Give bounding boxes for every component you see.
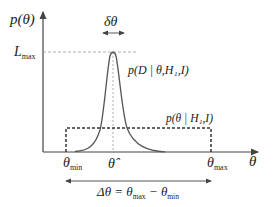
theta-hat-label: θ̂ [108, 156, 121, 171]
theta-min-label: θmin [63, 155, 82, 172]
prior-label: p(θ | H₁,I) [165, 112, 213, 125]
theta-max-label: θmax [207, 155, 228, 172]
y-axis-label: p(θ) [9, 11, 35, 28]
likelihood-label: p(D | θ,H₁,I) [127, 63, 189, 77]
x-axis-label: θ [249, 153, 257, 169]
peak-width-label: δθ [104, 14, 118, 29]
range-label: Δθ = θmax − θmin [96, 184, 179, 201]
diagram-canvas: p(θ) δθ Lmax p(D | θ,H₁,I) p(θ | H₁,I) θ… [0, 0, 274, 207]
lmax-label: Lmax [13, 44, 36, 61]
